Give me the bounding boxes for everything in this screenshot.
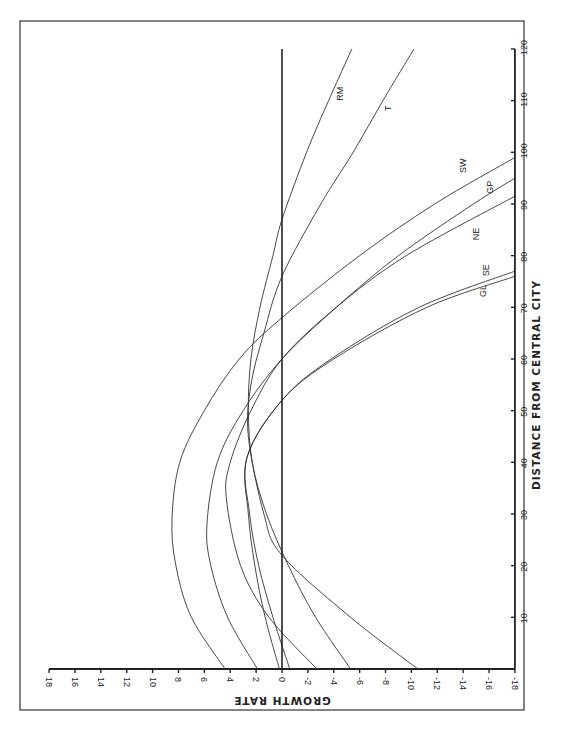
series-label-gl: GL	[478, 285, 488, 297]
growth-tick-label: -4	[329, 677, 339, 685]
distance-tick-label: 70	[519, 303, 529, 313]
growth-tick-label: -10	[406, 677, 416, 690]
growth-tick-label: 6	[199, 677, 209, 682]
chart-frame	[20, 21, 524, 710]
growth-tick-label: 4	[225, 677, 235, 682]
growth-rate-axis: 181614121086420-2-4-6-8-10-12-14-16-18	[44, 669, 520, 690]
series-curve-gl	[245, 276, 515, 669]
distance-tick-label: 120	[519, 40, 529, 55]
distance-tick-label: 10	[519, 613, 529, 623]
series-curves	[172, 49, 515, 669]
growth-tick-label: 10	[148, 677, 158, 687]
series-label-gp: GP	[485, 181, 495, 194]
growth-tick-label: -6	[355, 677, 365, 685]
distance-tick-label: 50	[519, 407, 529, 417]
series-curve-t	[247, 49, 417, 669]
distance-tick-label: 40	[519, 458, 529, 468]
series-label-t: T	[383, 105, 393, 111]
growth-tick-label: 18	[44, 677, 54, 687]
series-label-rm: RM	[335, 87, 345, 101]
distance-tick-label: 80	[519, 252, 529, 262]
series-curve-rm	[248, 49, 352, 669]
series-labels: RMTSWGPNESEGL	[335, 87, 495, 297]
distance-tick-label: 90	[519, 200, 529, 210]
series-curve-gp	[207, 178, 515, 669]
distance-axis: 102030405060708090100110120	[511, 40, 529, 669]
growth-tick-label: 16	[70, 677, 80, 687]
distance-tick-label: 20	[519, 562, 529, 572]
distance-tick-label: 110	[519, 92, 529, 106]
growth-tick-label: 8	[173, 677, 183, 682]
growth-axis-title: GROWTH RATE	[233, 695, 331, 707]
distance-axis-title: DISTANCE FROM CENTRAL CITY	[530, 280, 542, 490]
series-label-ne: NE	[471, 228, 481, 241]
series-label-sw: SW	[458, 158, 468, 173]
distance-tick-label: 100	[519, 143, 529, 158]
growth-rate-chart: 181614121086420-2-4-6-8-10-12-14-16-18 1…	[0, 0, 566, 729]
series-curve-sw	[172, 157, 515, 669]
growth-tick-label: -16	[484, 677, 494, 690]
growth-tick-label: 0	[277, 677, 287, 682]
distance-tick-label: 60	[519, 355, 529, 365]
growth-tick-label: 2	[251, 677, 261, 682]
growth-tick-label: -14	[458, 677, 468, 690]
growth-tick-label: -8	[381, 677, 391, 685]
growth-tick-label: 12	[122, 677, 132, 687]
series-label-se: SE	[481, 264, 491, 276]
growth-tick-label: 14	[96, 677, 106, 687]
series-curve-ne	[226, 196, 515, 669]
growth-tick-label: -2	[303, 677, 313, 685]
growth-tick-label: -12	[432, 677, 442, 690]
distance-tick-label: 30	[519, 510, 529, 520]
growth-tick-label: -18	[510, 677, 520, 690]
